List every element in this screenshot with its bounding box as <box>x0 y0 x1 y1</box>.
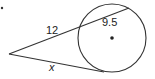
label-chord: 9.5 <box>102 16 117 28</box>
secant-line <box>9 8 129 54</box>
label-tangent: x <box>48 61 55 73</box>
diagram-canvas: 12 9.5 x <box>0 0 155 79</box>
label-secant-external: 12 <box>46 24 58 36</box>
center-point <box>110 36 114 40</box>
bullet-dot <box>1 7 3 9</box>
